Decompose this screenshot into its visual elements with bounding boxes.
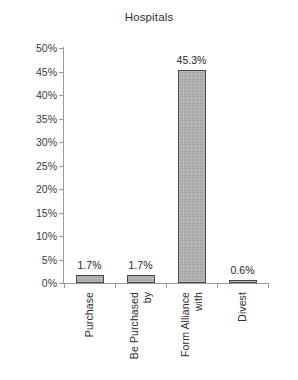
y-axis-tick-label: 0% [42,277,57,289]
y-axis-tick-mark [59,48,64,49]
y-axis-tick-label: 50% [36,42,57,54]
y-axis-tick-mark [59,72,64,73]
x-axis-category-label-line: Be Purchased [128,292,141,359]
y-axis-tick-mark [59,95,64,96]
y-axis-tick-mark [59,189,64,190]
y-axis-tick-mark [59,236,64,237]
bar [127,275,155,283]
bar-value-label: 0.6% [231,264,255,276]
x-axis-tick-mark [115,283,116,288]
x-axis-category-label: Form Alliancewith [166,292,217,378]
x-axis-category-label-line: with [192,292,205,311]
x-axis-category-label: Divest [217,292,268,378]
x-axis-tick-mark [166,283,167,288]
bar-value-label: 1.7% [78,259,102,271]
bar [229,280,257,283]
bar-value-label: 1.7% [129,259,153,271]
bar [76,275,104,283]
y-axis-tick-label: 10% [36,230,57,242]
x-axis-tick-mark [217,283,218,288]
bar-value-label: 45.3% [177,54,207,66]
y-axis-tick-mark [59,213,64,214]
plot-area: 50%45%40%35%30%25%20%15%10%5%0% 1.7%1.7%… [64,48,268,283]
y-axis-tick-label: 35% [36,113,57,125]
y-axis-tick-label: 5% [42,254,57,266]
bar-chart: Hospitals 50%45%40%35%30%25%20%15%10%5%0… [0,0,298,380]
x-axis-category-label-line: Divest [236,292,249,322]
y-axis-tick-label: 15% [36,207,57,219]
x-axis-category-label-line: by [141,292,154,303]
x-axis-category-label: Purchase [64,292,115,378]
y-axis-tick-label: 40% [36,89,57,101]
y-axis-tick-mark [59,166,64,167]
x-axis-tick-mark [64,283,65,288]
chart-title: Hospitals [0,11,298,23]
y-axis-tick-label: 25% [36,160,57,172]
bar [178,70,206,283]
y-axis-tick-label: 45% [36,66,57,78]
y-axis-tick-mark [59,119,64,120]
x-axis-category-label-line: Purchase [83,292,96,337]
y-axis-tick-mark [59,260,64,261]
y-axis-tick-mark [59,142,64,143]
y-axis-tick-label: 30% [36,136,57,148]
x-axis-tick-mark [268,283,269,288]
x-axis-category-label: Be Purchasedby [115,292,166,378]
y-axis-tick-label: 20% [36,183,57,195]
x-axis-category-label-line: Form Alliance [179,292,192,357]
